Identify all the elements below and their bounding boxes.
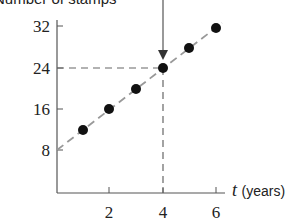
- x-tick-label: 6: [212, 203, 221, 221]
- y-tick-label: 16: [33, 100, 50, 119]
- x-tick-label: 2: [105, 203, 114, 221]
- x-axis-variable: t: [232, 180, 237, 200]
- x-tick-label: 4: [159, 203, 168, 221]
- stamps-chart: Number of stamps 32 24 16 8 2 4 6: [0, 0, 301, 221]
- arrow-down-icon: [158, 50, 168, 60]
- y-axis-label: Number of stamps: [0, 0, 117, 7]
- y-tick-label: 24: [33, 59, 51, 78]
- y-tick-label: 8: [42, 141, 51, 160]
- x-axis-unit: (years): [242, 183, 286, 199]
- y-tick-label: 32: [33, 17, 50, 36]
- y-ticks: 32 24 16 8: [33, 17, 63, 160]
- x-axis-label: t (years): [232, 180, 285, 201]
